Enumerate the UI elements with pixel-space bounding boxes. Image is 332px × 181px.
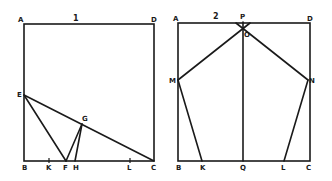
label-a: A xyxy=(18,16,24,24)
square-abcd-fig1 xyxy=(24,24,154,161)
line-nl xyxy=(284,80,308,161)
line-gh xyxy=(75,124,82,161)
line-gf xyxy=(66,124,82,161)
figure-number: 1 xyxy=(73,14,79,23)
geometry-diagram: 1 A D E G B K F H L C 2 A P O D M N B K … xyxy=(0,0,332,181)
label-b: B xyxy=(22,164,27,172)
label-l: L xyxy=(127,164,132,172)
line-mk xyxy=(178,80,202,161)
line-mo-extended xyxy=(178,23,250,80)
line-ec xyxy=(24,95,154,161)
label-k: K xyxy=(46,164,52,172)
label-f: F xyxy=(63,164,68,172)
label-d: D xyxy=(307,15,313,23)
label-a: A xyxy=(173,15,179,23)
figure-number: 2 xyxy=(213,12,219,21)
label-l: L xyxy=(281,164,286,172)
label-n: N xyxy=(309,77,315,85)
label-h: H xyxy=(73,164,79,172)
label-c: C xyxy=(151,164,156,172)
label-e: E xyxy=(17,91,22,99)
label-c: C xyxy=(306,164,311,172)
label-o: O xyxy=(244,31,250,39)
label-q: Q xyxy=(240,164,246,172)
label-m: M xyxy=(169,77,176,85)
label-k: K xyxy=(200,164,206,172)
figure-2: 2 A P O D M N B K Q L C xyxy=(169,12,315,172)
label-g: G xyxy=(82,115,88,123)
figure-1: 1 A D E G B K F H L C xyxy=(17,14,157,172)
label-p: P xyxy=(240,13,245,21)
label-d: D xyxy=(151,16,157,24)
label-b: B xyxy=(176,164,181,172)
